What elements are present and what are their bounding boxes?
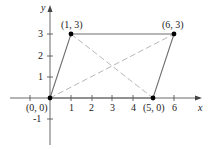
vertex-6-3: [172, 32, 177, 37]
x-tick-label-6: 6: [172, 102, 177, 113]
x-axis-label: x: [197, 102, 203, 113]
vertex-5-0: [151, 96, 156, 101]
x-tick-label-2: 2: [89, 102, 94, 113]
y-tick-label-neg1: -1: [33, 113, 41, 124]
y-axis-label: y: [40, 2, 46, 13]
vertex-label-0-0: (0, 0): [26, 102, 48, 114]
vertex-1-3: [69, 32, 74, 37]
vertex-label-1-3: (1, 3): [61, 19, 83, 31]
y-tick-label-2: 2: [38, 50, 43, 61]
vertex-label-5-0: (5, 0): [143, 102, 165, 114]
y-axis-arrow-icon: [48, 5, 53, 12]
x-tick-label-3: 3: [110, 102, 115, 113]
y-tick-label-1: 1: [38, 71, 43, 82]
diagonal-1-3-to-5-0: [71, 34, 153, 98]
x-axis-arrow-icon: [195, 96, 202, 101]
x-tick-label-1: 1: [69, 102, 74, 113]
vertex-label-6-3: (6, 3): [162, 19, 184, 31]
diagonal-origin-to-6-3: [50, 34, 174, 98]
vertex-0-0: [48, 96, 53, 101]
coordinate-plane: y x 3 2 1 -1 1 2 3 4 6 (0, 0) (1, 3) (6,…: [0, 0, 212, 149]
x-tick-label-4: 4: [131, 102, 136, 113]
y-tick-label-3: 3: [38, 28, 43, 39]
